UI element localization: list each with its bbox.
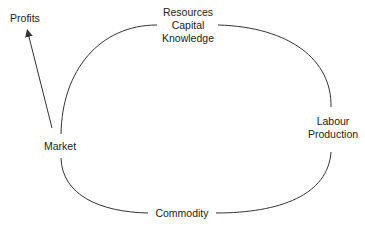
arrow-market-profits xyxy=(28,33,52,128)
node-resources-line-1: Resources xyxy=(162,6,214,19)
node-commodity: Commodity xyxy=(155,207,208,220)
node-profits-label: Profits xyxy=(10,12,40,25)
node-market-label: Market xyxy=(44,140,76,153)
node-market: Market xyxy=(44,140,76,153)
node-commodity-label: Commodity xyxy=(155,207,208,220)
edge-labour-commodity xyxy=(216,152,331,213)
node-resources-line-3: Knowledge xyxy=(162,32,214,45)
node-labour-line-2: Production xyxy=(308,128,358,141)
node-resources: Resources Capital Knowledge xyxy=(162,6,214,45)
edge-market-resources xyxy=(61,25,157,134)
edge-resources-labour xyxy=(218,25,331,107)
node-labour-production: Labour Production xyxy=(308,115,358,141)
node-labour-line-1: Labour xyxy=(308,115,358,128)
node-resources-line-2: Capital xyxy=(162,19,214,32)
edge-commodity-market xyxy=(61,158,148,213)
node-profits: Profits xyxy=(10,12,40,25)
